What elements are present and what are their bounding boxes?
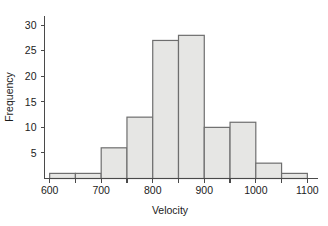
x-axis-tick-label: 900 <box>196 184 214 196</box>
y-axis-tick-label: 15 <box>25 96 37 108</box>
histogram-bar <box>101 148 127 179</box>
y-axis-tick-label: 10 <box>25 121 37 133</box>
histogram-bar <box>75 173 101 178</box>
y-axis-tick-label: 5 <box>31 147 37 159</box>
y-axis-tick-label: 25 <box>25 44 37 56</box>
histogram-bar <box>256 163 282 178</box>
x-axis-tick-label: 1100 <box>296 184 319 196</box>
histogram-bar <box>230 122 256 178</box>
x-axis-tick-label: 800 <box>144 184 162 196</box>
x-axis-tick-label: 1000 <box>244 184 268 196</box>
x-axis-tick-label: 600 <box>41 184 59 196</box>
y-axis-title: Frequency <box>3 71 15 121</box>
y-axis-tick-label: 30 <box>25 19 37 31</box>
y-axis-tick-label: 20 <box>25 70 37 82</box>
x-axis-title: Velocity <box>152 204 189 216</box>
histogram-bar <box>50 173 76 178</box>
x-axis-tick-label: 700 <box>92 184 110 196</box>
histogram-bar <box>282 173 308 178</box>
histogram-bar <box>204 127 230 178</box>
histogram-bar <box>127 117 153 178</box>
histogram-chart: 51015202530 60070080090010001100 Velocit… <box>0 0 328 226</box>
histogram-plot-area: 51015202530 60070080090010001100 Velocit… <box>0 0 328 226</box>
histogram-bar <box>179 35 205 178</box>
histogram-bar <box>153 40 179 178</box>
